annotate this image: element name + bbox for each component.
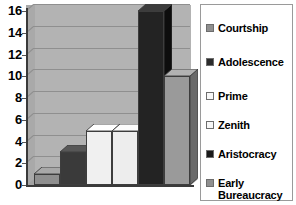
legend-item-courtship[interactable]: Courtship bbox=[206, 22, 268, 34]
legend-swatch-icon bbox=[206, 92, 214, 100]
legend-swatch-icon bbox=[206, 58, 214, 66]
y-axis-tick-label: 6 bbox=[0, 113, 22, 126]
legend-item-label: Early Bureaucracy bbox=[218, 177, 282, 201]
legend-swatch-icon bbox=[206, 179, 214, 187]
legend-item-adolescence[interactable]: Adolescence bbox=[206, 56, 284, 68]
chart-screenshot: 1614121086420 CourtshipAdolescencePrimeZ… bbox=[0, 0, 296, 205]
legend-swatch-icon bbox=[206, 24, 214, 32]
legend-item-prime[interactable]: Prime bbox=[206, 90, 248, 102]
legend-item-aristocracy[interactable]: Aristocracy bbox=[206, 148, 276, 160]
x-axis-line bbox=[26, 185, 194, 187]
legend-swatch-icon bbox=[206, 150, 214, 158]
bar-front-face bbox=[34, 174, 60, 185]
legend-item-label: Prime bbox=[218, 90, 248, 102]
bar-front-face bbox=[112, 131, 138, 185]
y-axis-tick-label: 4 bbox=[0, 135, 22, 148]
bar-courtship bbox=[34, 167, 60, 185]
bar-aristocracy bbox=[138, 4, 164, 185]
bar-top-face bbox=[138, 4, 172, 11]
legend-item-label: Adolescence bbox=[218, 56, 284, 68]
legend: CourtshipAdolescencePrimeZenithAristocra… bbox=[200, 4, 293, 201]
y-axis-line bbox=[26, 8, 28, 187]
y-axis-tick-label: 16 bbox=[0, 4, 22, 17]
y-axis-tick-label: 12 bbox=[0, 48, 22, 61]
bar-top-face bbox=[164, 69, 198, 76]
legend-item-zenith[interactable]: Zenith bbox=[206, 119, 250, 131]
y-axis-tick-label: 10 bbox=[0, 69, 22, 82]
y-axis-tick-label: 8 bbox=[0, 91, 22, 104]
bar-zenith bbox=[112, 124, 138, 185]
legend-swatch-icon bbox=[206, 121, 214, 129]
y-axis-tick-label: 2 bbox=[0, 156, 22, 169]
bar-chart: 1614121086420 bbox=[0, 0, 200, 205]
bar-prime bbox=[86, 124, 112, 185]
bar-front-face bbox=[86, 131, 112, 185]
legend-item-label: Aristocracy bbox=[218, 148, 276, 160]
bar-side-face bbox=[190, 69, 198, 185]
legend-item-label: Zenith bbox=[218, 119, 250, 131]
bar-adolescence bbox=[60, 145, 86, 185]
bar-front-face bbox=[164, 76, 190, 185]
legend-item-early-bureaucracy[interactable]: Early Bureaucracy bbox=[206, 177, 282, 201]
bar-front-face bbox=[60, 152, 86, 185]
y-axis-tick-label: 0 bbox=[0, 178, 22, 191]
bar-early-bureaucracy bbox=[164, 69, 190, 185]
legend-item-label: Courtship bbox=[218, 22, 268, 34]
bar-front-face bbox=[138, 11, 164, 185]
y-axis-tick-label: 14 bbox=[0, 26, 22, 39]
